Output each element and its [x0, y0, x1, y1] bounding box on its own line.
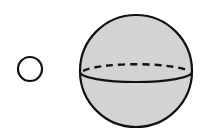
sphere [80, 15, 192, 127]
diagram-canvas [0, 0, 201, 138]
small-circle [18, 57, 42, 81]
